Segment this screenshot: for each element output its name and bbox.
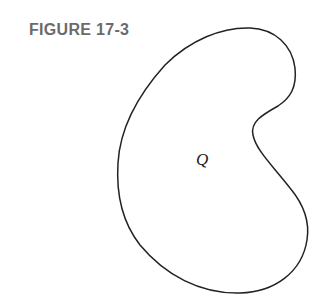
kidney-region-outline	[0, 0, 335, 299]
region-label-q: Q	[196, 150, 208, 170]
